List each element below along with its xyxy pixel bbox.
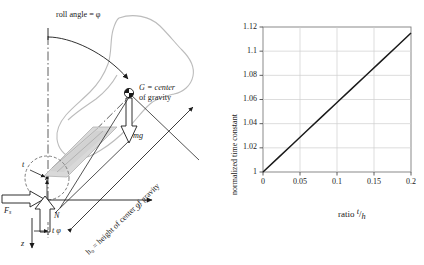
chart-y-axis-title: normalized time constant bbox=[230, 114, 239, 195]
side-force-arrow bbox=[2, 191, 44, 207]
x-axis-fraction-denominator: h bbox=[362, 213, 366, 222]
weight-label: mg bbox=[133, 131, 143, 140]
x-axis-title-fraction: t/h bbox=[357, 209, 366, 219]
figure-root: roll angle = φ G = center of gravity mg … bbox=[0, 0, 424, 265]
x-tick-label: 0 bbox=[261, 177, 265, 186]
x-axis-title-word: ratio bbox=[338, 209, 355, 219]
normal-force-label: N bbox=[54, 211, 59, 220]
y-tick-label: 1.12 bbox=[243, 22, 257, 31]
x-tick-label: 0.1 bbox=[332, 177, 342, 186]
x-tick-label: 0.05 bbox=[293, 177, 307, 186]
diagram-graphics bbox=[0, 0, 215, 265]
roll-angle-arc bbox=[48, 37, 128, 79]
y-tick-label: 1.04 bbox=[243, 118, 257, 127]
y-tick-label: 1.06 bbox=[243, 94, 257, 103]
cg-label-line1: G = center bbox=[139, 83, 175, 92]
roll-angle-label: roll angle = φ bbox=[56, 10, 101, 19]
y-tick-label: 1.08 bbox=[243, 70, 257, 79]
y-tick-label: 1.1 bbox=[247, 46, 257, 55]
side-force-label: Fs bbox=[4, 206, 11, 216]
y-tick-label: 1 bbox=[253, 167, 257, 176]
tire-offset-label: t φ bbox=[52, 226, 61, 235]
vehicle-roll-diagram: roll angle = φ G = center of gravity mg … bbox=[0, 0, 215, 265]
cg-label-line2: of gravity bbox=[139, 93, 171, 102]
tire-width-arrow bbox=[30, 170, 45, 177]
chart-x-axis-title: ratio t/h bbox=[338, 207, 366, 222]
axis-t-label: t bbox=[22, 160, 24, 169]
axis-z-label: z bbox=[21, 239, 24, 248]
chart-plot-area bbox=[215, 0, 424, 265]
side-force-subscript: s bbox=[9, 209, 11, 215]
x-tick-label: 0.15 bbox=[367, 177, 381, 186]
tire-center-point bbox=[45, 176, 48, 179]
y-tick-label: 1.02 bbox=[243, 142, 257, 151]
x-tick-label: 0.2 bbox=[406, 177, 416, 186]
time-constant-chart: normalized time constant 11.021.041.061.… bbox=[215, 0, 424, 265]
